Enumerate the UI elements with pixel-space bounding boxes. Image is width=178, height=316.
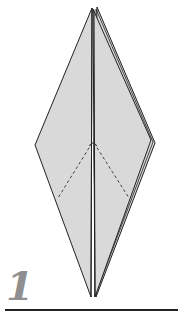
step-number: 1 <box>6 266 34 306</box>
front-right-flap <box>93 9 151 297</box>
front-left-flap <box>35 8 92 297</box>
baseline-rule <box>5 309 178 311</box>
